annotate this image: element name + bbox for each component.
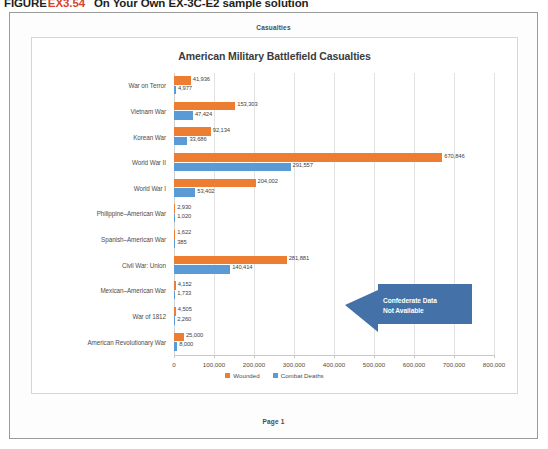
category-label: Vietnam War bbox=[32, 99, 166, 125]
figure-caption: FIGUREEX3.54On Your Own EX-3C-E2 sample … bbox=[4, 0, 544, 11]
bar-deaths[interactable] bbox=[174, 137, 187, 146]
legend-swatch bbox=[225, 373, 230, 378]
legend-item[interactable]: Combat Deaths bbox=[273, 372, 324, 379]
bar-deaths[interactable] bbox=[174, 86, 176, 95]
x-axis-tick bbox=[374, 355, 375, 358]
bar-deaths[interactable] bbox=[174, 316, 175, 325]
bar-wounded[interactable] bbox=[174, 230, 175, 239]
bar-wounded[interactable] bbox=[174, 76, 191, 85]
chart-category-row: World War I204,00253,402 bbox=[32, 176, 494, 202]
x-axis-tick-label: 800,000 bbox=[483, 361, 505, 368]
bar-value-label: 4,152 bbox=[178, 281, 192, 287]
x-axis-tick bbox=[414, 355, 415, 358]
document-header: Casualties bbox=[10, 24, 537, 31]
callout-line-2: Not Available bbox=[383, 306, 467, 316]
bar-value-label: 204,002 bbox=[258, 178, 278, 184]
document-footer: Page 1 bbox=[10, 418, 537, 425]
x-axis-tick-label: 400,000 bbox=[323, 361, 345, 368]
chart-legend: WoundedCombat Deaths bbox=[32, 372, 517, 379]
bar-value-label: 1,020 bbox=[177, 213, 191, 219]
x-axis-tick bbox=[174, 355, 175, 358]
document-page: Casualties American Military Battlefield… bbox=[9, 12, 538, 439]
chart-title: American Military Battlefield Casualties bbox=[32, 50, 517, 62]
bar-deaths[interactable] bbox=[174, 265, 230, 274]
category-bars: 92,13433,686 bbox=[174, 124, 494, 150]
bar-deaths[interactable] bbox=[174, 188, 195, 197]
bar-wounded[interactable] bbox=[174, 307, 176, 316]
category-bars: 281,881140,414 bbox=[174, 252, 494, 278]
chart-category-row: Philippine–American War2,9301,020 bbox=[32, 201, 494, 227]
bar-value-label: 291,557 bbox=[293, 162, 313, 168]
category-label: Civil War: Union bbox=[32, 252, 166, 278]
chart-category-row: Korean War92,13433,686 bbox=[32, 124, 494, 150]
chart-panel: American Military Battlefield Casualties… bbox=[31, 37, 518, 394]
x-axis-tick bbox=[454, 355, 455, 358]
category-label: Philippine–American War bbox=[32, 201, 166, 227]
bar-wounded[interactable] bbox=[174, 179, 256, 188]
legend-swatch bbox=[273, 373, 278, 378]
bar-value-label: 4,977 bbox=[178, 85, 192, 91]
x-axis-tick bbox=[294, 355, 295, 358]
x-axis-tick-label: 200,000 bbox=[243, 361, 265, 368]
bar-value-label: 33,686 bbox=[189, 136, 206, 142]
x-axis-tick bbox=[214, 355, 215, 358]
chart-category-row: Spanish–American War1,622385 bbox=[32, 227, 494, 253]
chart-category-row: Civil War: Union281,881140,414 bbox=[32, 252, 494, 278]
bar-deaths[interactable] bbox=[174, 291, 175, 300]
category-label: American Revolutionary War bbox=[32, 329, 166, 355]
x-axis-tick bbox=[334, 355, 335, 358]
category-label: Korean War bbox=[32, 124, 166, 150]
bar-wounded[interactable] bbox=[174, 153, 442, 162]
bar-wounded[interactable] bbox=[174, 256, 287, 265]
x-axis-tick-label: 300,000 bbox=[283, 361, 305, 368]
callout-line-1: Confederate Data bbox=[383, 296, 467, 306]
bar-value-label: 670,846 bbox=[444, 153, 464, 159]
bar-deaths[interactable] bbox=[174, 342, 177, 351]
category-label: World War II bbox=[32, 150, 166, 176]
x-axis: 0100,000200,000300,000400,000500,000600,… bbox=[174, 355, 494, 356]
bar-wounded[interactable] bbox=[174, 281, 176, 290]
chart-category-row: World War II670,846291,557 bbox=[32, 150, 494, 176]
bar-value-label: 1,622 bbox=[177, 229, 191, 235]
bar-deaths[interactable] bbox=[174, 214, 175, 223]
bar-value-label: 153,303 bbox=[237, 101, 257, 107]
bar-wounded[interactable] bbox=[174, 102, 235, 111]
figure-caption-number: EX3.54 bbox=[48, 0, 85, 9]
bar-value-label: 2,930 bbox=[177, 204, 191, 210]
legend-label: Combat Deaths bbox=[281, 372, 324, 379]
x-axis-tick-label: 500,000 bbox=[363, 361, 385, 368]
bar-wounded[interactable] bbox=[174, 204, 175, 213]
category-bars: 25,0008,000 bbox=[174, 329, 494, 355]
chart-category-row: War on Terror41,9364,977 bbox=[32, 73, 494, 99]
bar-wounded[interactable] bbox=[174, 127, 211, 136]
x-axis-tick-label: 600,000 bbox=[403, 361, 425, 368]
bar-value-label: 25,000 bbox=[186, 332, 203, 338]
category-bars: 1,622385 bbox=[174, 227, 494, 253]
callout-text: Confederate Data Not Available bbox=[383, 296, 467, 316]
x-axis-tick bbox=[254, 355, 255, 358]
x-axis-tick-label: 700,000 bbox=[443, 361, 465, 368]
bar-value-label: 1,733 bbox=[177, 290, 191, 296]
x-axis-tick-label: 100,000 bbox=[203, 361, 225, 368]
bar-value-label: 92,134 bbox=[213, 127, 230, 133]
bar-value-label: 8,000 bbox=[179, 341, 193, 347]
bar-deaths[interactable] bbox=[174, 239, 175, 248]
callout-confederate-data: Confederate Data Not Available bbox=[345, 284, 472, 332]
bar-deaths[interactable] bbox=[174, 111, 193, 120]
chart-category-row: Vietnam War153,30347,424 bbox=[32, 99, 494, 125]
bar-value-label: 281,881 bbox=[289, 255, 309, 261]
bar-wounded[interactable] bbox=[174, 333, 184, 342]
legend-item[interactable]: Wounded bbox=[225, 372, 259, 379]
category-bars: 204,00253,402 bbox=[174, 176, 494, 202]
category-bars: 153,30347,424 bbox=[174, 99, 494, 125]
bar-value-label: 53,402 bbox=[197, 188, 214, 194]
grid-line bbox=[494, 73, 495, 355]
bar-value-label: 47,424 bbox=[195, 111, 212, 117]
bar-value-label: 385 bbox=[177, 239, 186, 245]
bar-value-label: 140,414 bbox=[232, 264, 252, 270]
bar-value-label: 41,936 bbox=[193, 76, 210, 82]
bar-value-label: 2,260 bbox=[177, 316, 191, 322]
category-bars: 670,846291,557 bbox=[174, 150, 494, 176]
x-axis-tick-label: 0 bbox=[172, 361, 175, 368]
bar-deaths[interactable] bbox=[174, 163, 291, 172]
